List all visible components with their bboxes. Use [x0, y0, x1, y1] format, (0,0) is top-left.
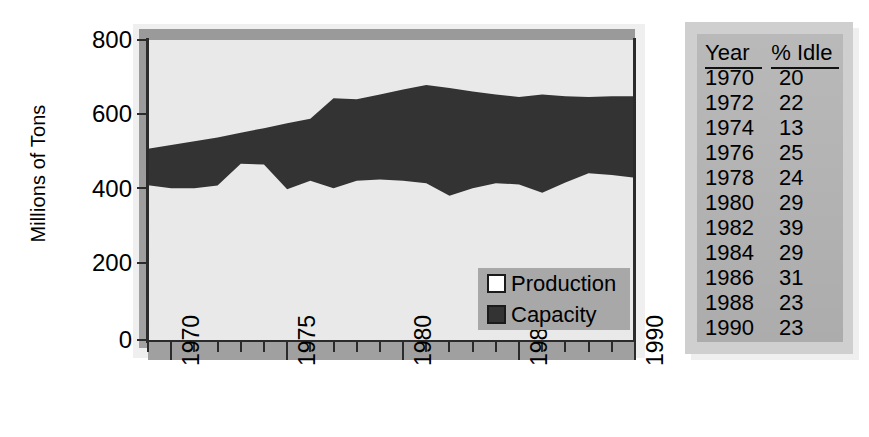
table-outer-frame: Year % Idle 1970201972221974131976251978… [685, 22, 853, 354]
table-row: 198429 [705, 242, 839, 267]
legend-item-production: Production [478, 268, 630, 299]
y-tick-label: 800 [66, 28, 132, 52]
x-tick-label: 1970 [180, 296, 203, 366]
table-cell-year: 1990 [705, 317, 775, 339]
table-cell-year: 1972 [705, 92, 775, 114]
x-tick-label: 1990 [644, 296, 667, 366]
legend-label: Capacity [511, 304, 597, 326]
x-tick-mark [217, 342, 219, 352]
plot-right-border [633, 38, 636, 342]
legend-swatch-capacity-icon [487, 305, 506, 324]
x-tick-mark [611, 342, 613, 352]
table-cell-year: 1980 [705, 192, 775, 214]
table-cell-idle: 23 [775, 292, 837, 314]
table-cell-year: 1986 [705, 267, 775, 289]
x-tick-label: 1975 [296, 296, 319, 366]
x-tick-mark [379, 342, 381, 352]
x-tick-mark [588, 342, 590, 352]
table-cell-idle: 29 [775, 192, 837, 214]
table-cell-idle: 13 [775, 117, 837, 139]
y-axis-title: Millions of Tons [27, 44, 50, 304]
y-tick-label: 200 [66, 251, 132, 275]
table-cell-year: 1984 [705, 242, 775, 264]
table-body: 1970201972221974131976251978241980291982… [705, 67, 839, 342]
x-axis-band [148, 342, 635, 360]
x-tick-mark [402, 342, 404, 360]
y-tick-label: 400 [66, 177, 132, 201]
table-cell-idle: 24 [775, 167, 837, 189]
table-cell-idle: 29 [775, 242, 837, 264]
table-cell-year: 1970 [705, 67, 775, 89]
table-cell-idle: 25 [775, 142, 837, 164]
idle-capacity-table: Year % Idle 1970201972221974131976251978… [685, 22, 857, 358]
table-cell-idle: 22 [775, 92, 837, 114]
table-cell-year: 1974 [705, 117, 775, 139]
table-cell-year: 1978 [705, 167, 775, 189]
table-row: 198631 [705, 267, 839, 292]
area-chart: Millions of Tons 800 600 400 200 0 19701… [0, 0, 670, 437]
table-row: 199023 [705, 317, 839, 342]
legend-item-capacity: Capacity [478, 299, 630, 330]
table-cell-year: 1982 [705, 217, 775, 239]
figure-root: Millions of Tons 800 600 400 200 0 19701… [0, 0, 869, 437]
x-tick-mark [448, 342, 450, 352]
x-tick-label: 1980 [412, 296, 435, 366]
x-tick-mark [634, 342, 636, 360]
x-tick-mark [170, 342, 172, 360]
table-cell-idle: 39 [775, 217, 837, 239]
table-cell-idle: 31 [775, 267, 837, 289]
y-tick-label: 0 [66, 328, 132, 352]
x-tick-mark [240, 342, 242, 352]
x-tick-mark [333, 342, 335, 352]
table-row: 197222 [705, 92, 839, 117]
table-row: 198239 [705, 217, 839, 242]
table-header-row: Year % Idle [705, 42, 839, 67]
x-tick-mark [564, 342, 566, 352]
legend-label: Production [511, 273, 616, 295]
x-tick-mark [356, 342, 358, 352]
table-cell-idle: 20 [775, 67, 837, 89]
x-tick-mark [286, 342, 288, 360]
legend-box: Production Capacity [478, 268, 630, 330]
table-grid: Year % Idle 1970201972221974131976251978… [705, 42, 839, 342]
y-axis-tick-labels: 800 600 400 200 0 [62, 0, 132, 437]
table-row: 198823 [705, 292, 839, 317]
table-row: 197824 [705, 167, 839, 192]
legend-swatch-production-icon [487, 274, 506, 293]
table-cell-year: 1976 [705, 142, 775, 164]
x-tick-mark [263, 342, 265, 352]
table-cell-idle: 23 [775, 317, 837, 339]
table-row: 198029 [705, 192, 839, 217]
x-tick-mark [147, 342, 149, 352]
table-inner-panel: Year % Idle 1970201972221974131976251978… [697, 34, 843, 342]
table-row: 197625 [705, 142, 839, 167]
x-tick-mark [495, 342, 497, 352]
table-row: 197020 [705, 67, 839, 92]
y-axis-line [146, 38, 149, 342]
x-tick-mark [472, 342, 474, 352]
y-tick-label: 600 [66, 102, 132, 126]
table-cell-year: 1988 [705, 292, 775, 314]
table-row: 197413 [705, 117, 839, 142]
x-tick-mark [518, 342, 520, 360]
